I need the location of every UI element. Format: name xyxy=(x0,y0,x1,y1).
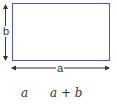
expression-a: a xyxy=(21,86,28,100)
expression-a-plus-b: a + b xyxy=(50,86,83,100)
width-label: a xyxy=(56,63,64,74)
height-label: b xyxy=(2,26,10,37)
